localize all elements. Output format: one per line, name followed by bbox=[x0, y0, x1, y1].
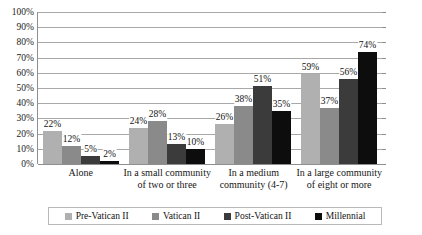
chart-legend: Pre-Vatican IIVatican IIPost-Vatican IIM… bbox=[48, 207, 382, 225]
y-axis-tick-mark bbox=[382, 58, 386, 59]
bar-slot: 38% bbox=[234, 12, 253, 164]
y-axis-tick-label: 100% bbox=[12, 6, 34, 19]
bar-value-label: 22% bbox=[43, 119, 62, 130]
bar-value-label: 26% bbox=[215, 112, 234, 123]
bar-value-label: 35% bbox=[272, 99, 291, 110]
bar-slot: 74% bbox=[358, 12, 377, 164]
category-label-line: Alone bbox=[38, 167, 123, 179]
bar-slot: 37% bbox=[320, 12, 339, 164]
y-axis-tick-mark bbox=[382, 149, 386, 150]
bar[interactable] bbox=[234, 106, 253, 164]
legend-swatch-icon bbox=[152, 213, 159, 220]
bar-slot: 26% bbox=[215, 12, 234, 164]
legend-label: Pre-Vatican II bbox=[76, 210, 129, 222]
bar[interactable] bbox=[167, 144, 186, 164]
category-label-line: community (4-7) bbox=[211, 179, 296, 191]
bar-slot: 5% bbox=[81, 12, 100, 164]
bar-slot: 13% bbox=[167, 12, 186, 164]
legend-swatch-icon bbox=[315, 213, 322, 220]
bar[interactable] bbox=[253, 86, 272, 164]
x-axis-category-labels: AloneIn a small communityof two or three… bbox=[38, 167, 382, 191]
x-axis-category-label: Alone bbox=[38, 167, 123, 191]
y-axis-tick-mark bbox=[382, 88, 386, 89]
bar[interactable] bbox=[129, 128, 148, 164]
bar[interactable] bbox=[62, 146, 81, 164]
bar[interactable] bbox=[81, 156, 100, 164]
y-axis-tick-mark bbox=[382, 103, 386, 104]
category-label-line: In a medium bbox=[211, 167, 296, 179]
bar-group: 59%37%56%74% bbox=[296, 12, 382, 164]
legend-swatch-icon bbox=[224, 213, 231, 220]
bar[interactable] bbox=[100, 161, 119, 164]
legend-item[interactable]: Millennial bbox=[315, 210, 366, 222]
y-axis-tick-label: 70% bbox=[17, 52, 34, 65]
bar-slot: 10% bbox=[186, 12, 205, 164]
y-axis-tick-mark bbox=[382, 134, 386, 135]
bar[interactable] bbox=[148, 121, 167, 164]
y-axis-tick-mark bbox=[382, 164, 386, 165]
bar[interactable] bbox=[186, 149, 205, 164]
y-axis-tick-label: 10% bbox=[17, 143, 34, 156]
bar-value-label: 38% bbox=[234, 94, 253, 105]
bar[interactable] bbox=[215, 124, 234, 164]
legend-label: Millennial bbox=[326, 210, 366, 222]
bar-value-label: 12% bbox=[62, 134, 81, 145]
bar-value-label: 10% bbox=[186, 137, 205, 148]
bar-group: 26%38%51%35% bbox=[210, 12, 296, 164]
y-axis-tick-label: 90% bbox=[17, 21, 34, 34]
bar-value-label: 28% bbox=[148, 109, 167, 120]
gridline: 0% bbox=[38, 164, 382, 165]
bar[interactable] bbox=[339, 79, 358, 164]
y-axis-tick-label: 40% bbox=[17, 97, 34, 110]
bar-value-label: 5% bbox=[83, 144, 98, 155]
category-label-line: of eight or more bbox=[296, 179, 382, 191]
category-label-line: of two or three bbox=[123, 179, 211, 191]
category-label-line: In a small community bbox=[123, 167, 211, 179]
bar[interactable] bbox=[43, 131, 62, 164]
y-axis-tick-mark bbox=[382, 73, 386, 74]
legend-swatch-icon bbox=[65, 213, 72, 220]
legend-label: Vatican II bbox=[163, 210, 200, 222]
x-axis-category-label: In a small communityof two or three bbox=[123, 167, 211, 191]
bar-slot: 59% bbox=[301, 12, 320, 164]
plot-area: 0%10%20%30%40%50%60%70%80%90%100% 22%12%… bbox=[38, 12, 382, 164]
bar-value-label: 13% bbox=[167, 132, 186, 143]
bar-group: 22%12%5%2% bbox=[38, 12, 124, 164]
bar-slot: 51% bbox=[253, 12, 272, 164]
bar-slot: 22% bbox=[43, 12, 62, 164]
bar-value-label: 56% bbox=[339, 67, 358, 78]
bar-value-label: 2% bbox=[102, 149, 117, 160]
y-axis-tick-label: 80% bbox=[17, 36, 34, 49]
bar[interactable] bbox=[301, 74, 320, 164]
bar-slot: 56% bbox=[339, 12, 358, 164]
bar-value-label: 59% bbox=[301, 62, 320, 73]
bar[interactable] bbox=[358, 52, 377, 164]
legend-item[interactable]: Vatican II bbox=[152, 210, 200, 222]
bar-value-label: 24% bbox=[129, 116, 148, 127]
y-axis-tick-label: 30% bbox=[17, 112, 34, 125]
y-axis-tick-label: 50% bbox=[17, 82, 34, 95]
bar-slot: 28% bbox=[148, 12, 167, 164]
y-axis-tick-label: 60% bbox=[17, 67, 34, 80]
y-axis-tick-mark bbox=[382, 118, 386, 119]
y-axis-tick-label: 0% bbox=[21, 158, 34, 171]
bar[interactable] bbox=[272, 111, 291, 164]
y-axis-tick-mark bbox=[382, 27, 386, 28]
bar[interactable] bbox=[320, 108, 339, 164]
bar-group: 24%28%13%10% bbox=[124, 12, 210, 164]
legend-item[interactable]: Pre-Vatican II bbox=[65, 210, 129, 222]
category-label-line: In a large community bbox=[296, 167, 382, 179]
bar-slot: 24% bbox=[129, 12, 148, 164]
legend-label: Post-Vatican II bbox=[235, 210, 292, 222]
bars-layer: 22%12%5%2%24%28%13%10%26%38%51%35%59%37%… bbox=[38, 12, 382, 164]
y-axis-tick-mark bbox=[382, 12, 386, 13]
bar-slot: 2% bbox=[100, 12, 119, 164]
y-axis-tick-label: 20% bbox=[17, 128, 34, 141]
bar-slot: 12% bbox=[62, 12, 81, 164]
legend-item[interactable]: Post-Vatican II bbox=[224, 210, 292, 222]
bar-value-label: 74% bbox=[358, 40, 377, 51]
x-axis-category-label: In a mediumcommunity (4-7) bbox=[211, 167, 296, 191]
bar-value-label: 51% bbox=[253, 74, 272, 85]
bar-value-label: 37% bbox=[320, 96, 339, 107]
x-axis-category-label: In a large communityof eight or more bbox=[296, 167, 382, 191]
